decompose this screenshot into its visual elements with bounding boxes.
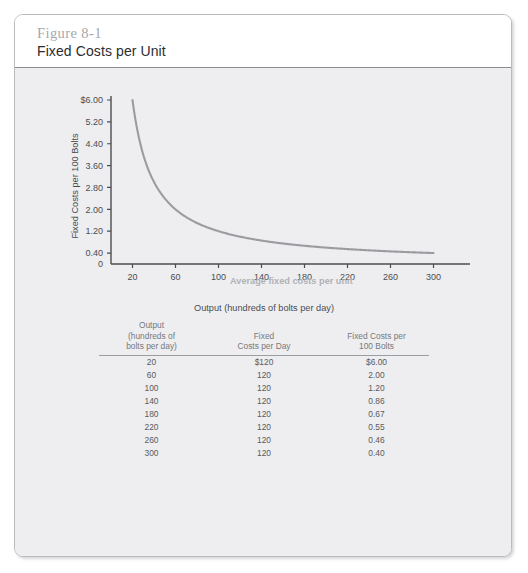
cell-fixed-costs-per-100-bolts: $6.00 — [324, 356, 429, 369]
y-axis-tick-label: 5.20 — [85, 117, 103, 127]
y-axis-tick-label: $6.00 — [80, 95, 103, 105]
y-axis-tick-label: 2.80 — [85, 183, 103, 193]
per100-header-line-1: Fixed Costs per — [324, 331, 429, 342]
table-body: 20$120$6.00601202.001001201.201401200.86… — [99, 356, 429, 461]
x-axis-tick-label: 260 — [383, 272, 398, 282]
y-axis-tick-label: 3.60 — [85, 161, 103, 171]
table-row: 1401200.86 — [99, 395, 429, 408]
cell-output: 180 — [99, 408, 204, 421]
table-row: 3001200.40 — [99, 447, 429, 460]
cell-output: 20 — [99, 356, 204, 369]
y-axis-tick-label: 1.20 — [85, 226, 103, 236]
y-axis-tick-label: 0.40 — [85, 248, 103, 258]
average-fixed-cost-curve — [133, 100, 434, 253]
column-header-fixed-costs-per-day: Fixed Costs per Day — [204, 320, 324, 355]
figure-number: Figure 8-1 — [37, 24, 511, 42]
table-row: 1001201.20 — [99, 382, 429, 395]
cell-fixed-costs-per-100-bolts: 0.40 — [324, 447, 429, 460]
y-axis-tick-label: 2.00 — [85, 205, 103, 215]
x-axis-tick-label: 300 — [426, 272, 441, 282]
y-axis-tick-label: 0 — [98, 259, 103, 269]
cell-fixed-costs-per-day: 120 — [204, 434, 324, 447]
figure-header: Figure 8-1 Fixed Costs per Unit — [15, 15, 511, 67]
fixed-costs-chart: 00.401.202.002.803.604.405.20$6.00 20601… — [15, 68, 512, 318]
x-axis-tick-label: 100 — [211, 272, 226, 282]
fixed-header-line-2: Costs per Day — [204, 341, 324, 352]
table-row: 2201200.55 — [99, 421, 429, 434]
cell-fixed-costs-per-day: 120 — [204, 421, 324, 434]
cell-output: 100 — [99, 382, 204, 395]
figure-body: 00.401.202.002.803.604.405.20$6.00 20601… — [15, 68, 511, 556]
y-axis-title: Fixed Costs per 100 Bolts — [70, 133, 80, 239]
column-header-output: Output (hundreds of bolts per day) — [99, 320, 204, 355]
fixed-header-line-1: Fixed — [204, 331, 324, 342]
cell-output: 140 — [99, 395, 204, 408]
cell-fixed-costs-per-100-bolts: 1.20 — [324, 382, 429, 395]
cell-fixed-costs-per-day: 120 — [204, 395, 324, 408]
cell-fixed-costs-per-day: 120 — [204, 408, 324, 421]
column-header-fixed-costs-per-100-bolts: Fixed Costs per 100 Bolts — [324, 320, 429, 355]
output-header-line-3: bolts per day) — [99, 341, 204, 352]
cell-fixed-costs-per-100-bolts: 0.46 — [324, 434, 429, 447]
cost-table-wrap: Output (hundreds of bolts per day) Fixed… — [15, 320, 512, 460]
cell-fixed-costs-per-100-bolts: 0.86 — [324, 395, 429, 408]
per100-header-line-2: 100 Bolts — [324, 341, 429, 352]
y-axis-tick-label: 4.40 — [85, 139, 103, 149]
output-header-line-2: (hundreds of — [99, 331, 204, 342]
cell-fixed-costs-per-100-bolts: 2.00 — [324, 369, 429, 382]
cell-output: 260 — [99, 434, 204, 447]
chart-region: 00.401.202.002.803.604.405.20$6.00 20601… — [15, 68, 512, 318]
axis-lines — [111, 96, 470, 264]
cell-output: 220 — [99, 421, 204, 434]
x-axis-tick-label: 20 — [127, 272, 137, 282]
cell-output: 60 — [99, 369, 204, 382]
y-axis-tick-group: 00.401.202.002.803.604.405.20$6.00 — [80, 95, 111, 269]
curve-annotation: Average fixed costs per unit — [230, 276, 353, 286]
table-header-row: Output (hundreds of bolts per day) Fixed… — [99, 320, 429, 355]
fixed-costs-table: Output (hundreds of bolts per day) Fixed… — [99, 320, 429, 460]
output-header-line-1: Output — [99, 320, 204, 331]
x-axis-tick-label: 60 — [170, 272, 180, 282]
cell-fixed-costs-per-day: 120 — [204, 447, 324, 460]
table-row: 1801200.67 — [99, 408, 429, 421]
table-row: 2601200.46 — [99, 434, 429, 447]
table-head: Output (hundreds of bolts per day) Fixed… — [99, 320, 429, 356]
cell-fixed-costs-per-100-bolts: 0.55 — [324, 421, 429, 434]
figure-title: Fixed Costs per Unit — [37, 42, 511, 61]
x-axis-title: Output (hundreds of bolts per day) — [194, 303, 334, 313]
cell-fixed-costs-per-100-bolts: 0.67 — [324, 408, 429, 421]
table-row: 601202.00 — [99, 369, 429, 382]
cell-fixed-costs-per-day: 120 — [204, 382, 324, 395]
table-row: 20$120$6.00 — [99, 356, 429, 369]
cell-output: 300 — [99, 447, 204, 460]
cell-fixed-costs-per-day: 120 — [204, 369, 324, 382]
cell-fixed-costs-per-day: $120 — [204, 356, 324, 369]
figure-card: Figure 8-1 Fixed Costs per Unit 00.401.2… — [14, 14, 512, 557]
